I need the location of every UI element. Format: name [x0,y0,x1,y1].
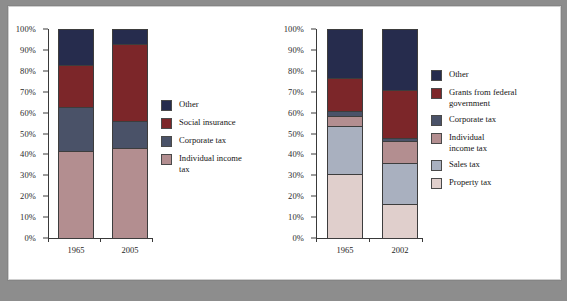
stacked-bar [382,29,418,239]
y-tick-mark [43,49,48,50]
y-tick-mark [43,133,48,134]
y-tick-mark [43,70,48,71]
y-tick-label: 20% [288,191,304,201]
x-axis-cap-left [48,238,49,242]
bar-segment [113,149,147,239]
y-tick-label: 50% [20,129,36,139]
y-tick-label: 80% [288,66,304,76]
y-tick-label: 60% [288,108,304,118]
y-tick-label: 100% [16,24,36,34]
x-axis-cap-right [152,238,153,242]
chart-panel-federal: 0%10%20%30%40%50%60%70%80%90%100% 196520… [9,7,281,279]
y-tick-label: 30% [20,170,36,180]
bar-segment [328,117,362,127]
bar-segment [383,30,417,91]
y-axis-spine-federal [48,29,49,239]
legend-item: Grants from federal government [431,87,559,108]
y-axis-labels-state-local: 0%10%20%30%40%50%60%70%80%90%100% [277,21,311,279]
y-tick-mark [311,217,316,218]
y-tick-mark [43,196,48,197]
x-axis-cap-middle [369,238,370,242]
plot-area-state-local: 0%10%20%30%40%50%60%70%80%90%100% 196520… [277,21,429,279]
legend-item: Individual income tax [161,153,273,174]
legend-swatch [431,115,442,126]
x-axis-cap-left [316,238,317,242]
y-tick-label: 70% [20,87,36,97]
legend-swatch [431,178,442,189]
bar-segment [59,108,93,152]
stacked-bar [112,29,148,239]
y-tick-mark [43,217,48,218]
legend-item: Social insurance [161,117,273,129]
bar-segment [59,66,93,109]
legend-swatch [431,70,442,81]
y-tick-mark [311,91,316,92]
legend-item: Other [161,99,273,111]
legend-swatch [161,100,172,111]
bar-segment [113,30,147,45]
y-tick-label: 40% [288,149,304,159]
legend-item: Individual income tax [431,132,559,153]
legend-swatch [431,88,442,99]
legend-swatch [161,136,172,147]
y-axis-spine-state-local [316,29,317,239]
legend-swatch [161,154,172,165]
y-tick-mark [311,175,316,176]
legend-item: Corporate tax [431,114,559,126]
bar-segment [113,45,147,122]
legend-item: Property tax [431,177,559,189]
y-tick-mark [43,154,48,155]
legend-item: Corporate tax [161,135,273,147]
y-tick-mark [43,175,48,176]
y-tick-label: 10% [288,212,304,222]
y-tick-mark [311,196,316,197]
y-tick-mark [43,112,48,113]
legend-label: Other [449,69,469,80]
bar-segment [383,205,417,239]
y-tick-label: 10% [20,212,36,222]
figure-canvas: 0%10%20%30%40%50%60%70%80%90%100% 196520… [8,6,561,280]
legend-label: Social insurance [179,117,236,128]
y-tick-label: 60% [20,108,36,118]
y-tick-label: 90% [288,45,304,55]
bar-segment [383,164,417,205]
chart-panel-state-local: 0%10%20%30%40%50%60%70%80%90%100% 196520… [277,7,560,279]
y-tick-label: 0% [24,233,36,243]
bar-segment [383,142,417,164]
legend-label: Sales tax [449,159,480,170]
plot-area-federal: 0%10%20%30%40%50%60%70%80%90%100% 196520… [9,21,159,279]
x-axis-cap-right [422,238,423,242]
bar-segment [113,122,147,149]
y-axis-labels-federal: 0%10%20%30%40%50%60%70%80%90%100% [9,21,43,279]
bar-segment [383,91,417,139]
legend-label: Individual income tax [179,153,242,174]
y-tick-mark [311,154,316,155]
legend-label: Corporate tax [449,114,496,125]
y-tick-label: 20% [20,191,36,201]
legend-label: Corporate tax [179,135,226,146]
y-tick-label: 0% [292,233,304,243]
legend-swatch [431,160,442,171]
legend-swatch [161,118,172,129]
y-tick-label: 90% [20,45,36,55]
legend-item: Other [431,69,559,81]
y-tick-mark [311,133,316,134]
y-tick-mark [311,70,316,71]
y-tick-mark [43,29,48,30]
y-tick-mark [311,29,316,30]
x-axis-cap-middle [100,238,101,242]
y-tick-label: 80% [20,66,36,76]
legend-label: Individual income tax [449,132,487,153]
legend-label: Other [179,99,199,110]
y-tick-label: 40% [20,149,36,159]
x-axis-category-label: 1965 [68,245,85,255]
bar-segment [59,30,93,66]
legend-label: Grants from federal government [449,87,517,108]
legend-state-local: OtherGrants from federal governmentCorpo… [431,69,559,195]
x-axis-category-label: 2002 [392,245,409,255]
bar-segment [59,152,93,239]
x-axis-category-label: 1965 [337,245,354,255]
y-tick-mark [43,91,48,92]
y-tick-mark [311,112,316,113]
stacked-bar [58,29,94,239]
